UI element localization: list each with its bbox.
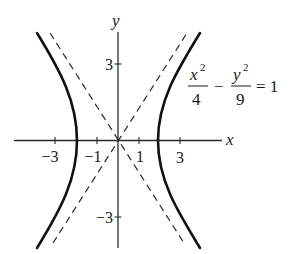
x-tick-label: −1: [84, 148, 101, 165]
x-axis-label: x: [225, 130, 234, 149]
svg-text:x: x: [189, 65, 198, 84]
y-tick-label: −3: [96, 209, 113, 226]
x-tick-label: 1: [136, 148, 144, 165]
svg-text:= 1: = 1: [256, 77, 278, 96]
x-tick-label: 3: [176, 149, 184, 166]
svg-text:4: 4: [192, 90, 201, 109]
svg-text:2: 2: [200, 61, 206, 73]
equation-label: x 2 4 − y 2 9 = 1: [188, 61, 278, 109]
svg-text:2: 2: [243, 61, 249, 73]
hyperbola-figure: −3 −1 1 3 3 −3 x y x 2 4 − y 2 9 = 1: [0, 0, 290, 254]
svg-text:y: y: [231, 65, 241, 84]
x-tick-label: −3: [41, 148, 58, 165]
svg-text:−: −: [214, 77, 224, 96]
y-axis-label: y: [110, 11, 120, 30]
svg-text:9: 9: [236, 90, 245, 109]
y-tick-label: 3: [105, 56, 113, 73]
